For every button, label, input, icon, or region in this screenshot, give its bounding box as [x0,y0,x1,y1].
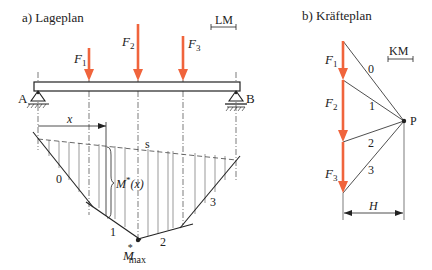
max-moment-point [136,238,140,242]
force-vector-f1-sub: 1 [333,59,338,69]
force-f2: F2 [121,24,143,81]
force-f1-sub: 1 [82,58,87,68]
kraefteplan-panel: b) Kräfteplan KM P F1 F2 [302,8,417,220]
svg-text:F2: F2 [121,34,134,51]
moment-brace [107,147,114,218]
force-vector-f1: F1 [324,41,348,80]
svg-text:F3: F3 [324,166,338,183]
ray-label-1: 1 [369,99,375,113]
moment-label: M*(x) [115,175,144,191]
projection-lines [38,72,236,240]
svg-text:F3: F3 [187,36,201,53]
lageplan-title: a) Lageplan [22,10,84,25]
x-dimension: x [38,112,106,216]
rope-segment-1: 1 [110,225,116,239]
support-a-label: A [18,91,28,106]
force-scale-bar: KM [388,44,413,62]
closing-line-s [38,139,236,160]
support-a: A [18,91,49,108]
ray-label-0: 0 [368,62,374,76]
kraefteplan-title: b) Kräfteplan [302,8,372,23]
pole-point [402,119,406,123]
ray-label-2: 2 [368,136,374,150]
svg-text:F1: F1 [73,51,86,68]
force-vector-f2: F2 [324,80,348,142]
beam [34,82,240,91]
closing-line-label: s [145,137,150,151]
ray-label-3: 3 [368,163,374,177]
force-f3-sub: 3 [196,43,201,53]
force-vector-f3-sub: 3 [333,173,338,183]
max-moment-label: M*max [122,242,146,265]
rope-segment-2: 2 [160,235,166,249]
support-b: B [225,91,255,111]
rope-polygon-diagram: a) Lageplan LM A [0,0,432,270]
support-b-label: B [246,91,255,106]
force-vector-f3: F3 [324,142,348,193]
length-scale-bar: LM [211,13,236,30]
pole-label: P [410,114,417,128]
lageplan-panel: a) Lageplan LM A [18,10,255,265]
x-label: x [66,112,73,126]
force-f3: F3 [178,36,201,81]
length-scale-label: LM [215,13,233,27]
svg-text:F1: F1 [324,52,337,69]
force-f1: F1 [73,48,94,81]
force-vector-f2-sub: 2 [333,102,338,112]
force-scale-label: KM [389,44,409,58]
svg-text:F2: F2 [324,95,337,112]
pole-distance-label: H [368,199,379,213]
rope-segment-0: 0 [56,172,62,186]
force-f2-sub: 2 [130,41,135,51]
rope-segment-3: 3 [210,195,216,209]
